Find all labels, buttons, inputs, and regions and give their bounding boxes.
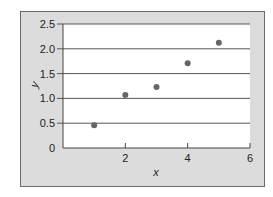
y-tick-label: 2.5	[40, 18, 55, 30]
data-point	[91, 122, 97, 128]
data-point	[154, 84, 160, 90]
x-axis-label: x	[152, 166, 159, 178]
data-point	[122, 92, 128, 98]
y-tick-label: 1.5	[40, 68, 55, 80]
x-tick-label: 2	[122, 152, 128, 164]
scatter-chart: 246 00.51.01.52.02.5 x y	[0, 0, 273, 197]
y-tick-label: 1.0	[40, 92, 55, 104]
y-tick-label: 0	[49, 142, 55, 154]
y-axis-label: y	[27, 79, 41, 91]
y-ticks: 00.51.01.52.02.5	[40, 18, 55, 154]
y-tick-label: 0.5	[40, 117, 55, 129]
x-tick-label: 4	[185, 152, 191, 164]
data-point	[185, 60, 191, 66]
data-point	[216, 40, 222, 46]
y-tick-label: 2.0	[40, 43, 55, 55]
x-tick-label: 6	[247, 152, 253, 164]
